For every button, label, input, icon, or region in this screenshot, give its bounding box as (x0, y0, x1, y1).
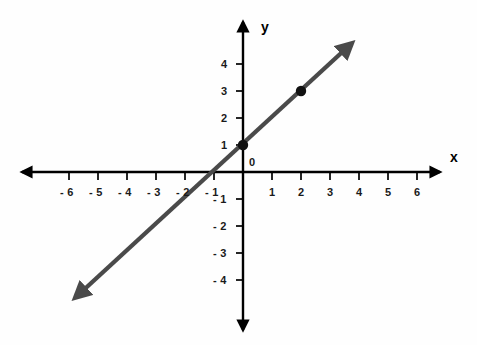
x-tick-label-4: 4 (356, 187, 362, 198)
origin-label: 0 (249, 157, 255, 168)
graph-canvas: y x 0 - 6 - 5 - 4 - 3 - 2 - 1 1 2 3 4 5 … (0, 0, 477, 345)
x-tick-label-1: 1 (269, 187, 275, 198)
data-point-2-3 (296, 86, 306, 96)
x-tick-label-3: 3 (327, 187, 333, 198)
x-tick-label-2: 2 (298, 187, 304, 198)
y-tick-label-neg2: - 2 (213, 221, 227, 232)
y-tick-label-4: 4 (221, 59, 227, 70)
y-tick-label-neg1: - 1 (213, 194, 227, 205)
data-point-y-intercept (238, 140, 248, 150)
x-axis-label: x (450, 150, 458, 164)
x-tick-label-neg3: - 3 (147, 187, 161, 198)
x-tick-label-5: 5 (385, 187, 391, 198)
x-tick-label-neg6: - 6 (60, 187, 74, 198)
y-tick-label-neg3: - 3 (213, 248, 227, 259)
y-tick-label-2: 2 (221, 113, 227, 124)
y-tick-label-1: 1 (221, 140, 227, 151)
x-tick-label-neg5: - 5 (89, 187, 103, 198)
y-tick-label-3: 3 (221, 86, 227, 97)
x-tick-label-neg4: - 4 (118, 187, 132, 198)
x-tick-label-neg2: - 2 (176, 187, 190, 198)
coordinate-plane-svg (0, 0, 477, 345)
plotted-line (76, 44, 351, 297)
x-tick-label-6: 6 (414, 187, 420, 198)
y-axis-label: y (261, 20, 269, 34)
y-tick-label-neg4: - 4 (213, 275, 227, 286)
